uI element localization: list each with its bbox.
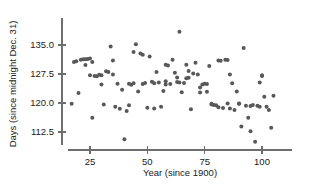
x-tick-label: 50 [142,156,153,167]
data-point [141,82,145,86]
data-point [260,73,264,77]
data-point [187,69,191,73]
data-point [111,72,115,76]
data-point [132,50,136,54]
data-point [221,106,225,110]
data-point [228,72,232,76]
data-point [207,64,211,68]
data-point [239,125,243,129]
data-point [184,76,188,80]
data-point [246,116,250,120]
data-point [237,101,241,105]
data-point [90,60,94,64]
data-point [219,59,223,63]
data-point [196,72,200,76]
data-point [116,82,120,86]
data-point [193,61,197,65]
data-point [216,105,220,109]
data-point [127,103,131,107]
data-point [111,58,115,62]
data-point [77,91,81,95]
data-point [118,107,122,111]
data-point [102,103,106,107]
data-point [122,137,126,141]
data-point [106,70,110,74]
data-point [182,81,186,85]
data-point [205,82,209,86]
data-point [88,73,92,77]
data-point [74,59,78,63]
x-tick-label: 25 [85,156,96,167]
data-point [152,106,156,110]
x-tick-label: 100 [254,156,270,167]
data-point [226,58,230,62]
x-axis-ticks: 255075100 [85,146,270,167]
data-point [205,90,209,94]
y-tick-label: 127.5 [30,68,54,79]
data-point [159,105,163,109]
data-point [189,107,193,111]
data-point [171,58,175,62]
scatter-chart: 112.5120.0127.5135.0 255075100 Days (sin… [0,0,316,189]
data-point [157,81,161,85]
data-point [155,70,159,74]
data-point [262,95,266,99]
data-point [249,129,253,133]
data-point [90,116,94,120]
x-axis-title: Year (since 1900) [143,167,217,178]
data-point [242,46,246,50]
data-point [125,109,129,113]
data-point [152,81,156,85]
plot-area: 112.5120.0127.5135.0 255075100 Days (sin… [0,0,316,189]
data-point [175,75,179,79]
data-point [136,89,140,93]
data-point [132,81,136,85]
data-point [120,88,124,92]
data-point [168,82,172,86]
data-point [173,71,177,75]
y-axis-ticks: 112.5120.0127.5135.0 [30,39,66,137]
data-point [228,106,232,110]
data-point [232,108,236,112]
data-point [141,53,145,57]
data-point [271,94,275,98]
y-axis-title: Days (since midnight Dec. 31) [7,21,18,148]
data-point [230,81,234,85]
data-point [267,108,271,112]
data-point [198,86,202,90]
data-point [244,104,248,108]
data-point [127,82,131,86]
data-point [177,30,181,34]
data-point [269,126,273,130]
data-point [88,57,92,61]
data-point [99,82,103,86]
data-point [113,105,117,109]
data-point [177,81,181,85]
data-point [184,63,188,67]
y-tick-label: 120.0 [30,97,54,108]
data-point [70,102,74,106]
data-point [258,81,262,85]
data-point [161,89,165,93]
data-point [164,82,168,86]
data-point [253,140,257,144]
data-point [145,106,149,110]
data-point [191,72,195,76]
data-point [226,101,230,105]
data-point [148,55,152,59]
data-point [99,73,103,77]
x-tick-label: 75 [199,156,210,167]
data-point [109,45,113,49]
data-point [210,102,214,106]
data-point [249,104,253,108]
data-point [164,63,168,67]
data-point [180,90,184,94]
data-point [83,63,87,67]
data-point [198,91,202,95]
y-tick-label: 112.5 [31,126,54,137]
y-tick-label: 135.0 [30,39,54,50]
data-points-layer [70,30,276,144]
data-point [258,105,262,109]
data-point [235,89,239,93]
data-point [134,42,138,46]
